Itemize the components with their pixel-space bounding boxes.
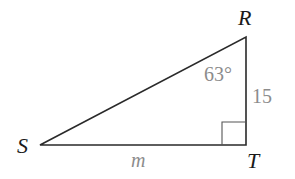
triangle-diagram: R S T 63° 15 m	[0, 0, 295, 179]
triangle-srt	[40, 37, 246, 145]
side-st-length: m	[131, 149, 145, 171]
side-rt-length: 15	[252, 85, 272, 107]
vertex-label-t: T	[247, 148, 261, 173]
angle-r-measure: 63°	[204, 63, 232, 85]
right-angle-marker	[222, 122, 246, 145]
vertex-label-r: R	[237, 5, 252, 30]
vertex-label-s: S	[17, 133, 28, 158]
